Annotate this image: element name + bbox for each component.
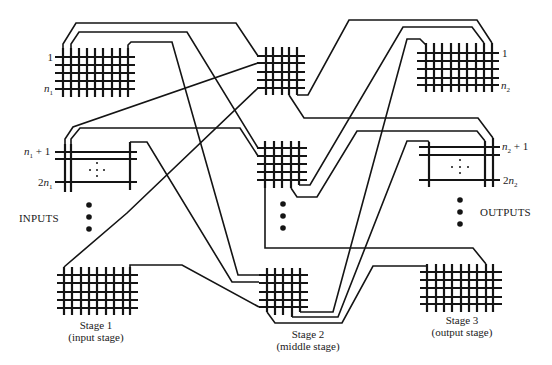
outputs-label: OUTPUTS (480, 206, 531, 218)
ellipsis-dot (280, 201, 286, 207)
small-dot (96, 162, 98, 164)
outputs-ellipsis-dots (457, 197, 463, 227)
label-subscript: 1 (50, 89, 54, 97)
stage-3-label: Stage 3 (446, 314, 479, 326)
stage-3-sublabel: (output stage) (432, 326, 493, 339)
crossbar-switches (55, 43, 502, 317)
crossbar-switch-s1c (57, 267, 138, 315)
link-m2-to-s3a (299, 27, 484, 185)
ellipsis-dot (457, 209, 463, 215)
output-port-label-n2: n2 (501, 79, 511, 94)
link-m2-to-s3b (291, 131, 485, 197)
input-port-label-n1: n1 (44, 82, 54, 97)
crossbar-switch-m3 (259, 268, 308, 317)
link-s1a-to-m3 (128, 42, 259, 275)
link-s1c-to-m3 (130, 265, 259, 307)
ellipsis-dot (457, 221, 463, 227)
ellipsis-dot (280, 225, 286, 231)
ellipsis-dot (86, 202, 92, 208)
crossbar-switch-s3a (417, 43, 499, 92)
small-dot (467, 166, 469, 168)
link-s1b-to-m3 (130, 142, 259, 282)
label-subscript: 1 (49, 183, 53, 191)
output-port-label-1: 1 (502, 47, 508, 59)
label-subscript: 2 (514, 181, 518, 189)
ellipsis-dot (457, 197, 463, 203)
link-m2-to-s3c (265, 188, 486, 264)
crossbar-switch-s1b (55, 142, 137, 192)
crossbar-switch-s3c (420, 264, 502, 312)
input-switch-omitted-crosspoints-dots (89, 162, 105, 177)
crossbar-switch-s1a (55, 48, 135, 97)
output-port-label-2n2: 2n2 (503, 174, 518, 189)
small-dot (459, 172, 461, 174)
small-dot (103, 169, 105, 171)
crossbar-switch-m1 (257, 47, 305, 95)
output-switch-omitted-crosspoints-dots (451, 159, 469, 174)
ellipsis-dot (86, 226, 92, 232)
stage-2-sublabel: (middle stage) (276, 340, 340, 353)
small-dot (459, 166, 461, 168)
input-port-label-2n1: 2n1 (38, 176, 53, 191)
label-suffix: + 1 (33, 145, 50, 157)
ellipsis-dot (280, 213, 286, 219)
link-m3-to-s3a (300, 39, 426, 312)
crossbar-switch-s3b (419, 138, 500, 187)
label-subscript: 2 (507, 86, 511, 94)
stage-1-sublabel: (input stage) (68, 331, 124, 344)
label-suffix: + 1 (511, 140, 528, 152)
small-dot (451, 166, 453, 168)
inputs-ellipsis-dots (86, 202, 92, 232)
small-dot (96, 169, 98, 171)
crossbar-switch-m2 (257, 141, 307, 188)
link-s1a-to-m1 (63, 23, 258, 56)
output-port-label-n2-plus-1: n2 + 1 (502, 140, 528, 155)
stage-1-label: Stage 1 (80, 319, 113, 331)
ellipsis-dot (86, 214, 92, 220)
three-stage-switching-network-diagram: 1 n1 n1 + 1 2n1 1 n2 n2 + 1 2n2 INPUTS O… (0, 0, 552, 365)
input-port-label-1: 1 (48, 51, 54, 63)
inputs-label: INPUTS (19, 212, 59, 224)
middle-ellipsis-dots (280, 201, 286, 231)
small-dot (459, 159, 461, 161)
stage-2-label: Stage 2 (292, 328, 325, 340)
small-dot (89, 169, 91, 171)
input-port-label-n1-plus-1: n1 + 1 (24, 145, 50, 160)
small-dot (96, 175, 98, 177)
